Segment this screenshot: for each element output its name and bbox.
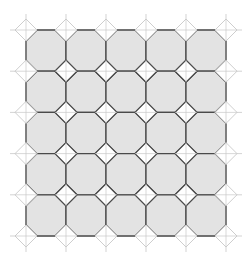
octagon-tile — [26, 71, 66, 112]
octagon-tile — [26, 112, 66, 153]
octagon-tile — [66, 154, 106, 195]
octagon-tile — [186, 154, 226, 195]
octagon-tile — [146, 30, 186, 71]
octagon-tiles — [26, 30, 226, 236]
octagon-tile — [186, 30, 226, 71]
octagon-tile — [186, 195, 226, 236]
octagon-tile — [66, 30, 106, 71]
octagon-tile — [106, 154, 146, 195]
octagon-tiling-diagram — [0, 0, 247, 264]
octagon-tile — [146, 112, 186, 153]
octagon-tile — [66, 195, 106, 236]
octagon-tile — [66, 112, 106, 153]
octagon-tile — [26, 195, 66, 236]
octagon-tile — [26, 30, 66, 71]
octagon-tile — [106, 195, 146, 236]
octagon-tile — [146, 154, 186, 195]
octagon-tile — [106, 30, 146, 71]
octagon-tile — [26, 154, 66, 195]
octagon-tile — [146, 195, 186, 236]
octagon-tile — [106, 71, 146, 112]
octagon-tile — [186, 112, 226, 153]
octagon-tile — [66, 71, 106, 112]
octagon-tile — [106, 112, 146, 153]
octagon-tile — [146, 71, 186, 112]
octagon-tile — [186, 71, 226, 112]
